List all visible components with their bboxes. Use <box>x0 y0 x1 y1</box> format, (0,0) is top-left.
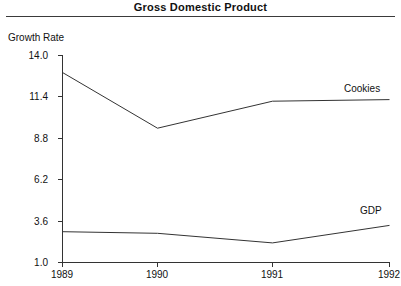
chart-figure: Gross Domestic Product Growth Rate 14.0 … <box>0 0 401 286</box>
data-line-cookies <box>63 73 390 129</box>
data-line-gdp <box>63 225 390 243</box>
plot-area <box>0 0 401 286</box>
y-axis-ticks <box>58 56 62 263</box>
